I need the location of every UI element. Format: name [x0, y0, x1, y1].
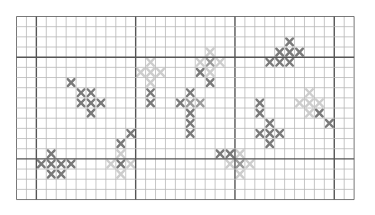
- cross-stitch-light: [147, 79, 154, 86]
- cross-stitch-dark: [58, 171, 65, 178]
- cross-stitch-chart: [16, 16, 356, 202]
- cross-stitch-dark: [276, 49, 283, 56]
- cross-stitch-light: [207, 69, 214, 76]
- cross-stitch-light: [117, 171, 124, 178]
- cross-stitch-dark: [286, 59, 293, 66]
- cross-stitch-light: [227, 160, 234, 167]
- cross-stitch-dark: [286, 38, 293, 45]
- cross-stitch-dark: [88, 89, 95, 96]
- cross-stitch-medium: [187, 99, 194, 106]
- cross-stitch-dark: [217, 150, 224, 157]
- cross-stitch-dark: [68, 160, 75, 167]
- cross-stitch-light: [217, 59, 224, 66]
- cross-stitch-dark: [147, 89, 154, 96]
- cross-stitch-dark: [88, 99, 95, 106]
- cross-stitch-dark: [256, 99, 263, 106]
- cross-stitch-dark: [68, 79, 75, 86]
- cross-stitch-dark: [48, 160, 55, 167]
- cross-stitch-light: [296, 99, 303, 106]
- grid-lines: [17, 17, 355, 200]
- cross-stitch-dark: [48, 150, 55, 157]
- cross-stitch-dark: [326, 120, 333, 127]
- cross-stitch-dark: [266, 120, 273, 127]
- cross-stitch-dark: [266, 130, 273, 137]
- cross-stitch-dark: [48, 171, 55, 178]
- cross-stitch-dark: [177, 99, 184, 106]
- cross-stitch-light: [237, 171, 244, 178]
- cross-stitch-light: [137, 69, 144, 76]
- cross-stitch-dark: [117, 160, 124, 167]
- cross-stitch-dark: [58, 160, 65, 167]
- cross-stitch-light: [306, 89, 313, 96]
- cross-stitch-dark: [256, 110, 263, 117]
- cross-stitch-dark: [98, 99, 105, 106]
- cross-stitch-medium: [207, 59, 214, 66]
- cross-stitch-light: [157, 69, 164, 76]
- cross-stitch-light: [117, 150, 124, 157]
- cross-stitch-light: [306, 99, 313, 106]
- cross-stitch-medium: [237, 160, 244, 167]
- cross-stitch-medium: [197, 99, 204, 106]
- cross-stitch-light: [246, 160, 253, 167]
- cross-stitch-dark: [286, 49, 293, 56]
- cross-stitch-dark: [78, 99, 85, 106]
- cross-stitch-dark: [187, 130, 194, 137]
- cross-stitch-dark: [276, 130, 283, 137]
- cross-stitch-dark: [197, 69, 204, 76]
- cross-stitch-light: [147, 59, 154, 66]
- cross-stitch-light: [207, 49, 214, 56]
- cross-stitch-dark: [296, 49, 303, 56]
- cross-stitch-dark: [276, 59, 283, 66]
- cross-stitch-dark: [187, 110, 194, 117]
- cross-stitch-dark: [187, 120, 194, 127]
- cross-stitch-dark: [266, 59, 273, 66]
- cross-stitch-dark: [88, 110, 95, 117]
- cross-stitch-light: [197, 59, 204, 66]
- cross-stitch-dark: [266, 140, 273, 147]
- cross-stitch-light: [237, 150, 244, 157]
- cross-stitch-dark: [256, 130, 263, 137]
- cross-stitch-dark: [127, 130, 134, 137]
- cross-stitch-dark: [117, 140, 124, 147]
- stitch-grid: [16, 16, 356, 202]
- cross-stitch-dark: [316, 110, 323, 117]
- cross-stitch-light: [127, 160, 134, 167]
- cross-stitch-dark: [78, 89, 85, 96]
- cross-stitch-dark: [38, 160, 45, 167]
- cross-stitch-light: [306, 110, 313, 117]
- cross-stitch-dark: [147, 99, 154, 106]
- cross-stitch-light: [107, 160, 114, 167]
- cross-stitch-light: [147, 69, 154, 76]
- cross-stitch-light: [316, 99, 323, 106]
- cross-stitch-dark: [227, 150, 234, 157]
- cross-stitch-dark: [207, 79, 214, 86]
- cross-stitch-dark: [187, 89, 194, 96]
